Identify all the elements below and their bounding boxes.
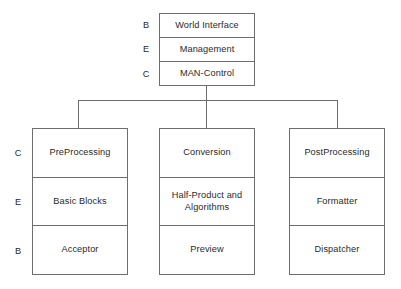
connector-drop-preprocessing	[78, 100, 79, 129]
root-tier-letters: B E C	[139, 13, 153, 86]
child-tier-letters: C E B	[11, 128, 25, 275]
root-stack-man-control: World Interface Management MAN-Control	[159, 13, 255, 86]
connector-horizontal-bus	[78, 100, 338, 101]
connector-drop-conversion	[206, 100, 207, 129]
cell-preview: Preview	[160, 226, 254, 274]
connector-drop-postprocessing	[337, 100, 338, 129]
cell-preprocessing: PreProcessing	[33, 129, 127, 178]
cell-basic-blocks: Basic Blocks	[33, 178, 127, 227]
cell-postprocessing: PostProcessing	[290, 129, 384, 178]
root-tier-letter-b: B	[139, 13, 153, 37]
root-tier-letter-c: C	[139, 62, 153, 86]
root-cell-world-interface: World Interface	[160, 14, 254, 38]
child-stack-conversion: Conversion Half-Product and Algorithms P…	[159, 128, 255, 275]
cell-half-product-and-algorithms: Half-Product and Algorithms	[160, 178, 254, 227]
child-tier-letter-c: C	[11, 128, 25, 177]
diagram-canvas: B E C World Interface Management MAN-Con…	[0, 0, 401, 289]
cell-conversion: Conversion	[160, 129, 254, 178]
child-stack-preprocessing: PreProcessing Basic Blocks Acceptor	[32, 128, 128, 275]
root-cell-management: Management	[160, 38, 254, 62]
child-tier-letter-e: E	[11, 177, 25, 226]
root-cell-man-control: MAN-Control	[160, 62, 254, 85]
root-tier-letter-e: E	[139, 37, 153, 61]
cell-formatter: Formatter	[290, 178, 384, 227]
connector-root-stub	[206, 86, 207, 101]
child-tier-letter-b: B	[11, 226, 25, 275]
cell-dispatcher: Dispatcher	[290, 226, 384, 274]
child-stack-postprocessing: PostProcessing Formatter Dispatcher	[289, 128, 385, 275]
cell-acceptor: Acceptor	[33, 226, 127, 274]
